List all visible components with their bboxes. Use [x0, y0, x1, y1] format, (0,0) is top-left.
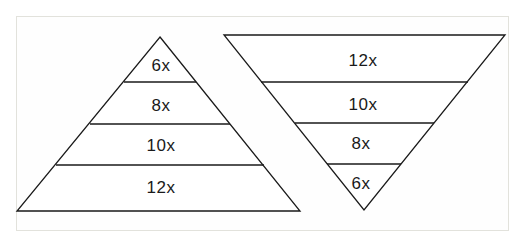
upright-layer-2-label: 8x — [152, 96, 171, 116]
inverted-layer-2-label: 10x — [349, 95, 378, 115]
inverted-layer-3-label: 8x — [352, 134, 371, 154]
upright-layer-1-label: 6x — [152, 56, 171, 76]
inverted-layer-4-label: 6x — [352, 174, 371, 194]
upright-layer-4-label: 12x — [147, 178, 176, 198]
inverted-layer-1-label: 12x — [349, 51, 378, 71]
upright-layer-3-label: 10x — [147, 136, 176, 156]
pyramids-canvas — [0, 0, 523, 246]
